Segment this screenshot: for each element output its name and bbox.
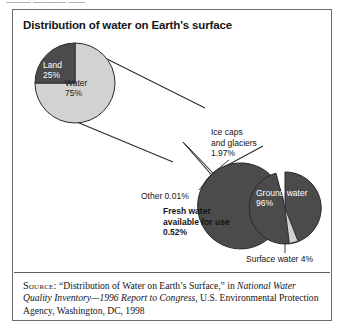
fresh-water-line2: available for use bbox=[163, 217, 230, 227]
fresh-water-value: 0.52% bbox=[163, 227, 187, 237]
pie1-label-land: Land 25% bbox=[43, 60, 62, 80]
pie1-land-value: 25% bbox=[43, 70, 60, 80]
ice-caps-value: 1.97% bbox=[211, 148, 235, 158]
pie1-water-name: Water bbox=[65, 78, 87, 88]
pie2-salt-water-value: 97.5% bbox=[163, 133, 187, 143]
ice-caps-line2: and glaciers bbox=[211, 138, 257, 148]
callout-fresh-water: Fresh water available for use 0.52% bbox=[163, 206, 230, 238]
fresh-water-line1: Fresh water bbox=[163, 206, 211, 216]
clipped-header-text: ——— ———— —— bbox=[6, 0, 126, 3]
pie3-label-ground-water: Ground water 96% bbox=[256, 188, 308, 208]
pie3-ground-water-name: Ground water bbox=[256, 188, 308, 198]
source-label: Source: bbox=[23, 280, 57, 291]
pie2-label-salt-water: Salt water 97.5% bbox=[163, 123, 201, 143]
callout-other: Other 0.01% bbox=[141, 191, 189, 202]
callout-ice-caps: Ice caps and glaciers 1.97% bbox=[211, 127, 257, 159]
pie1-land-name: Land bbox=[43, 60, 62, 70]
callout-surface-water: Surface water 4% bbox=[246, 254, 313, 265]
source-part1: “Distribution of Water on Earth’s Surfac… bbox=[57, 280, 237, 291]
source-divider bbox=[14, 272, 330, 273]
figure-box: Distribution of water on Earth's surface bbox=[12, 9, 332, 321]
pie1-label-water: Water 75% bbox=[65, 78, 87, 98]
pie2-salt-water-name: Salt water bbox=[163, 123, 201, 133]
pie1-water-value: 75% bbox=[65, 88, 82, 98]
source-note: Source: “Distribution of Water on Earth’… bbox=[23, 280, 323, 317]
ice-caps-line1: Ice caps bbox=[211, 127, 243, 137]
pie3-ground-water-value: 96% bbox=[256, 198, 273, 208]
